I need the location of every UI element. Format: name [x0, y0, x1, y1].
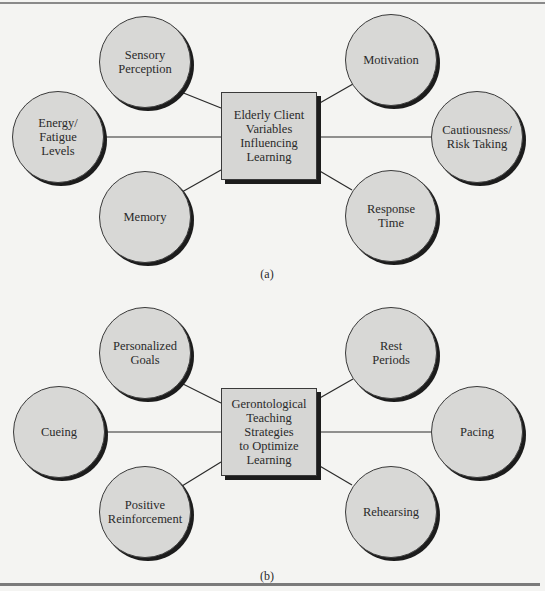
- center-box-label: Gerontological Teaching Strategies to Op…: [232, 397, 307, 467]
- caption-b: (b): [247, 569, 287, 584]
- center-box-label: Elderly Client Variables Influencing Lea…: [234, 108, 304, 164]
- node-label: Pacing: [460, 425, 494, 439]
- connector-lines: [0, 0, 545, 591]
- node-cautiousness-risk-taking: Cautiousness/ Risk Taking: [431, 91, 523, 183]
- node-positive-reinforcement: Positive Reinforcement: [99, 466, 191, 558]
- node-label: Response Time: [367, 202, 415, 230]
- connector-memory: [182, 170, 221, 192]
- node-energy-fatigue-levels: Energy/ Fatigue Levels: [12, 91, 104, 183]
- node-label: Memory: [123, 210, 166, 224]
- node-label: Sensory Perception: [118, 48, 171, 76]
- node-personalized-goals: Personalized Goals: [99, 307, 191, 399]
- connector-positive: [182, 462, 221, 486]
- node-label: Personalized Goals: [113, 339, 177, 367]
- connector-motivation: [318, 84, 353, 104]
- center-box-gerontological-teaching-strategies: Gerontological Teaching Strategies to Op…: [221, 388, 317, 476]
- caption-a: (a): [247, 267, 287, 282]
- node-sensory-perception: Sensory Perception: [99, 16, 191, 108]
- node-motivation: Motivation: [345, 14, 437, 106]
- node-label: Cautiousness/ Risk Taking: [442, 123, 511, 151]
- node-response-time: Response Time: [345, 170, 437, 262]
- node-rehearsing: Rehearsing: [345, 466, 437, 558]
- node-label: Rehearsing: [363, 505, 419, 519]
- node-label: Cueing: [41, 425, 77, 439]
- connector-sensory: [181, 92, 221, 108]
- node-label: Rest Periods: [372, 339, 410, 367]
- connector-rehearsing: [318, 465, 352, 485]
- node-label: Positive Reinforcement: [108, 498, 182, 526]
- bottom-rule: [0, 583, 540, 586]
- node-label: Motivation: [363, 53, 419, 67]
- node-memory: Memory: [99, 171, 191, 263]
- center-box-elderly-client-variables: Elderly Client Variables Influencing Lea…: [221, 92, 317, 180]
- connector-personalized: [181, 383, 221, 403]
- node-cueing: Cueing: [13, 386, 105, 478]
- node-pacing: Pacing: [431, 386, 523, 478]
- connector-response: [318, 170, 352, 190]
- node-label: Energy/ Fatigue Levels: [38, 116, 77, 158]
- node-rest-periods: Rest Periods: [345, 307, 437, 399]
- connector-rest: [318, 379, 353, 399]
